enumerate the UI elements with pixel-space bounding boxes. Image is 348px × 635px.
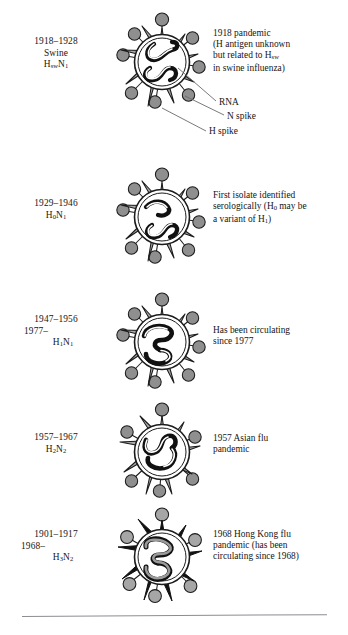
influenza-subtypes-figure: 1918–1928 Swine HswN1 bbox=[0, 0, 348, 635]
virion-svg bbox=[112, 400, 212, 505]
note-line: a variant of H1) bbox=[213, 214, 346, 226]
virion-svg bbox=[112, 165, 212, 270]
note-line: Has been circulating bbox=[213, 325, 346, 336]
label-line: 1968– bbox=[0, 541, 112, 553]
note-line: serologically (H0 may be bbox=[213, 201, 346, 213]
virion-svg bbox=[112, 290, 212, 395]
callout-n-spike: N spike bbox=[227, 111, 256, 121]
label-line: H1N1 bbox=[0, 337, 112, 350]
note-line: 1957 Asian flu bbox=[213, 433, 346, 444]
row-left-label: 1957–1967 H2N2 bbox=[0, 432, 112, 456]
callout-leader-lines bbox=[0, 0, 348, 150]
note-line: since 1977 bbox=[213, 336, 346, 347]
label-line: 1901–1917 bbox=[0, 529, 112, 541]
influenza-virion-diagram bbox=[112, 165, 212, 270]
label-line: 1929–1946 bbox=[0, 198, 112, 210]
note-line: pandemic bbox=[213, 444, 346, 455]
note-line: 1968 Hong Kong flu bbox=[213, 529, 346, 540]
note-line: circulating since 1968) bbox=[213, 551, 346, 562]
label-line: H2N2 bbox=[0, 444, 112, 457]
note-line: pandemic (has been bbox=[213, 540, 346, 551]
envelope-membrane bbox=[135, 425, 190, 480]
label-line: H0N1 bbox=[0, 210, 112, 223]
callout-h-spike: H spike bbox=[209, 126, 238, 136]
virus-row: 1957–1967 H2N2 bbox=[0, 400, 348, 505]
label-line: 1977– bbox=[0, 326, 112, 338]
influenza-virion-diagram bbox=[112, 290, 212, 395]
row-left-label: 1947–1956 1977– H1N1 bbox=[0, 314, 112, 350]
row-right-note: First isolate identified serologically (… bbox=[213, 190, 346, 226]
label-line: 1957–1967 bbox=[0, 432, 112, 444]
virus-row: 1901–1917 1968– H3N2 bbox=[0, 505, 348, 610]
label-line: 1947–1956 bbox=[0, 314, 112, 326]
influenza-virion-diagram bbox=[112, 400, 212, 505]
label-line: H3N2 bbox=[0, 552, 112, 565]
bottom-divider bbox=[22, 614, 327, 617]
influenza-virion-diagram bbox=[112, 505, 212, 610]
row-left-label: 1929–1946 H0N1 bbox=[0, 198, 112, 222]
callout-rna: RNA bbox=[219, 97, 239, 107]
virus-row: 1929–1946 H0N1 bbox=[0, 165, 348, 270]
row-right-note: Has been circulating since 1977 bbox=[213, 325, 346, 347]
note-line: First isolate identified bbox=[213, 190, 346, 201]
row-right-note: 1968 Hong Kong flu pandemic (has been ci… bbox=[213, 529, 346, 563]
row-right-note: 1957 Asian flu pandemic bbox=[213, 433, 346, 455]
virion-svg bbox=[112, 505, 212, 610]
row-left-label: 1901–1917 1968– H3N2 bbox=[0, 529, 112, 565]
virus-row: 1947–1956 1977– H1N1 bbox=[0, 290, 348, 395]
